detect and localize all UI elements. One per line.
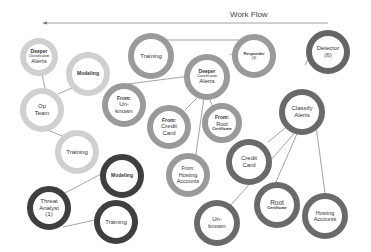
node-label: Credit — [161, 123, 177, 130]
node-from-hosting-accounts[interactable]: From: Hosting Accounts — [166, 153, 210, 197]
node-label: Training — [66, 149, 87, 156]
node-credit-card[interactable]: Credit Card — [226, 139, 272, 185]
node-label: (6) — [324, 52, 331, 59]
node-modeling-left[interactable]: Modeling — [66, 52, 110, 96]
node-label: Alerts — [294, 112, 309, 119]
node-root-certificate[interactable]: Root Certificate — [254, 182, 300, 228]
node-training-left[interactable]: Training — [55, 130, 99, 174]
node-label: Op — [38, 103, 46, 110]
node-label: Un- — [119, 101, 129, 108]
arrow-head-icon — [42, 22, 47, 25]
node-label: Threat — [40, 198, 57, 205]
node-training-bottom[interactable]: Training — [94, 200, 138, 244]
node-unknown[interactable]: Un- known — [194, 200, 240, 246]
node-responder[interactable]: Responder (4) — [232, 34, 276, 78]
node-from-root-certificate[interactable]: From: Root Certificate — [202, 103, 242, 143]
node-label: Certificate — [212, 127, 232, 131]
node-label: Modeling — [111, 173, 133, 179]
node-label: (4) — [252, 56, 257, 60]
node-from-unknown[interactable]: From: Un- known — [102, 83, 146, 127]
node-label: Card — [162, 130, 175, 137]
node-training-top[interactable]: Training — [128, 33, 174, 79]
node-op-team[interactable]: Op Team — [20, 88, 64, 132]
node-label: Alerts — [31, 58, 46, 65]
node-label: Card — [242, 162, 255, 169]
node-label: Modeling — [77, 71, 99, 77]
node-label: Training — [140, 53, 161, 60]
node-deeper-classification-left[interactable]: Deeper Classification Alerts — [20, 38, 58, 76]
node-label: Certificate — [267, 206, 287, 210]
node-label: Credit — [241, 155, 257, 162]
node-label: Classify — [291, 105, 312, 112]
node-hosting-accounts[interactable]: Hosting Accounts — [302, 193, 348, 239]
node-threat-analyst[interactable]: Threat Analyst (1) — [27, 186, 71, 230]
node-from-credit-card[interactable]: From: Credit Card — [147, 105, 191, 149]
node-label: Accounts — [314, 216, 337, 222]
node-label: Team — [35, 110, 50, 117]
node-deeper-classification-center[interactable]: Deeper Classification Alerts — [184, 54, 230, 100]
node-label: known — [208, 223, 225, 230]
node-detector[interactable]: Detector (6) — [306, 30, 350, 74]
node-label: Analyst — [39, 205, 59, 212]
node-label: Un- — [212, 216, 222, 223]
node-modeling-bottom[interactable]: Modeling — [100, 154, 144, 198]
node-label: Alerts — [199, 78, 214, 85]
node-label: (1) — [45, 211, 52, 218]
node-label: Accounts — [177, 178, 200, 184]
node-label: Training — [105, 219, 126, 226]
node-label: known — [115, 108, 132, 115]
node-classify-alerts[interactable]: Classify Alerts — [279, 89, 325, 135]
workflow-title: Work Flow — [230, 10, 268, 19]
node-label: Detector — [317, 45, 340, 52]
